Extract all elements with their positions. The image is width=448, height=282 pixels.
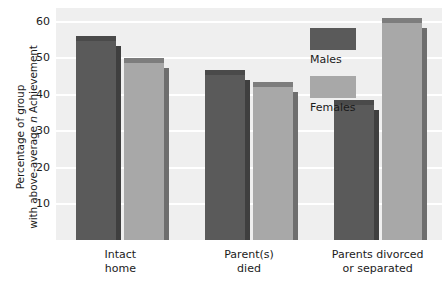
bar-face xyxy=(382,23,422,240)
bar-chart-figure: Percentage of group with above-average n… xyxy=(0,0,448,282)
bar-side xyxy=(245,80,250,241)
x-axis-label-line: or separated xyxy=(332,262,424,276)
x-axis-label-line: Parent(s) xyxy=(224,248,274,262)
bar-side xyxy=(374,110,379,240)
bar-females-0 xyxy=(124,63,164,240)
x-axis-label-line: Intact xyxy=(105,248,137,262)
bar-males-0 xyxy=(76,41,116,240)
y-axis-tick-labels: 102030405060 xyxy=(14,0,50,282)
y-axis-tick-label: 10 xyxy=(24,197,50,210)
bar-side xyxy=(422,28,427,240)
y-axis-tick-label: 20 xyxy=(24,160,50,173)
bar-top xyxy=(76,36,116,41)
legend-entry-females: Females xyxy=(310,76,380,114)
bar-side xyxy=(293,92,298,240)
bar-face xyxy=(124,63,164,240)
bar-face xyxy=(76,41,116,240)
x-axis-label-0: Intacthome xyxy=(105,248,137,275)
x-axis-label-2: Parents divorcedor separated xyxy=(332,248,424,275)
x-axis-label-1: Parent(s)died xyxy=(224,248,274,275)
x-axis-label-line: Parents divorced xyxy=(332,248,424,262)
bar-face xyxy=(205,75,245,241)
x-axis-label-line: home xyxy=(105,262,137,276)
bar-side xyxy=(116,46,121,240)
legend-entry-males: Males xyxy=(310,28,380,66)
y-axis-tick-label: 50 xyxy=(24,51,50,64)
bar-males-2 xyxy=(334,105,374,240)
x-axis-category-labels: IntacthomeParent(s)diedParents divorcedo… xyxy=(56,248,442,282)
plot-area xyxy=(56,8,442,240)
bar-females-2 xyxy=(382,23,422,240)
bar-top xyxy=(253,82,293,87)
x-axis-label-line: died xyxy=(224,262,274,276)
legend-label-males: Males xyxy=(310,53,380,66)
bar-top xyxy=(124,58,164,63)
legend: MalesFemales xyxy=(310,28,380,124)
y-axis-tick-label: 40 xyxy=(24,87,50,100)
bar-face xyxy=(334,105,374,240)
bar-top xyxy=(205,70,245,75)
bar-side xyxy=(164,68,169,240)
y-axis-tick-label: 30 xyxy=(24,124,50,137)
legend-label-females: Females xyxy=(310,101,380,114)
y-axis-tick-label: 60 xyxy=(24,14,50,27)
bar-males-1 xyxy=(205,75,245,241)
bar-face xyxy=(253,87,293,240)
bar-females-1 xyxy=(253,87,293,240)
legend-swatch-females xyxy=(310,76,356,98)
legend-swatch-males xyxy=(310,28,356,50)
bar-top xyxy=(382,18,422,23)
